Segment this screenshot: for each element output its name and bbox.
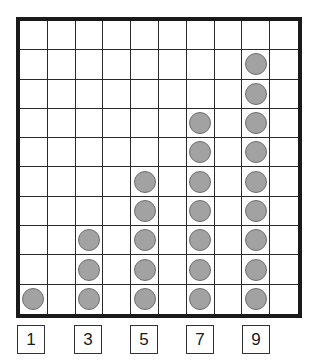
grid-cell bbox=[159, 197, 187, 226]
grid-cell bbox=[76, 138, 104, 167]
grid-cell bbox=[270, 21, 298, 50]
grid-cell bbox=[20, 197, 48, 226]
grid-cell bbox=[76, 255, 104, 284]
column-labels: 1 3 5 7 9 bbox=[0, 325, 309, 355]
grid-cell bbox=[103, 80, 131, 109]
counter-circle-icon bbox=[78, 259, 100, 281]
grid-cell bbox=[215, 138, 243, 167]
grid-cell bbox=[20, 167, 48, 196]
grid-cell bbox=[20, 109, 48, 138]
grid-cell bbox=[187, 138, 215, 167]
grid-cell bbox=[131, 109, 159, 138]
grid-cell bbox=[103, 197, 131, 226]
grid-cell bbox=[159, 255, 187, 284]
counter-circle-icon bbox=[189, 200, 211, 222]
grid-cell bbox=[270, 109, 298, 138]
grid-cell bbox=[48, 285, 76, 314]
counter-grid bbox=[16, 17, 302, 318]
grid-cell bbox=[187, 255, 215, 284]
grid-cell bbox=[76, 21, 104, 50]
grid-cell bbox=[20, 21, 48, 50]
grid-cell bbox=[270, 226, 298, 255]
grid-cell bbox=[103, 226, 131, 255]
grid-cell bbox=[103, 109, 131, 138]
grid-cell bbox=[20, 285, 48, 314]
counter-circle-icon bbox=[134, 171, 156, 193]
grid-cell bbox=[215, 50, 243, 79]
grid-cell bbox=[242, 197, 270, 226]
grid-cell bbox=[159, 21, 187, 50]
grid-cell bbox=[20, 138, 48, 167]
grid-cell bbox=[242, 138, 270, 167]
label-box-7: 7 bbox=[186, 325, 214, 354]
grid-cell bbox=[187, 80, 215, 109]
grid-cell bbox=[20, 255, 48, 284]
counter-circle-icon bbox=[189, 141, 211, 163]
grid-cell bbox=[76, 197, 104, 226]
grid-cell bbox=[76, 50, 104, 79]
grid-cell bbox=[48, 80, 76, 109]
grid-cell bbox=[131, 167, 159, 196]
grid-cell bbox=[215, 167, 243, 196]
label-box-3: 3 bbox=[74, 325, 102, 354]
grid-cell bbox=[131, 138, 159, 167]
counter-circle-icon bbox=[245, 200, 267, 222]
grid-cell bbox=[242, 50, 270, 79]
grid-cell bbox=[242, 80, 270, 109]
grid-cell bbox=[242, 285, 270, 314]
counter-circle-icon bbox=[245, 229, 267, 251]
grid-cell bbox=[242, 226, 270, 255]
grid-cell bbox=[76, 80, 104, 109]
grid-cell bbox=[103, 167, 131, 196]
grid-cell bbox=[103, 285, 131, 314]
counter-circle-icon bbox=[134, 259, 156, 281]
grid-cell bbox=[48, 138, 76, 167]
grid-cell bbox=[215, 109, 243, 138]
grid-cell bbox=[76, 285, 104, 314]
counter-circle-icon bbox=[134, 200, 156, 222]
grid-cell bbox=[270, 138, 298, 167]
grid-cell bbox=[131, 50, 159, 79]
counter-circle-icon bbox=[245, 141, 267, 163]
grid-cell bbox=[76, 167, 104, 196]
grid-cell bbox=[159, 50, 187, 79]
grid-cell bbox=[159, 138, 187, 167]
counter-circle-icon bbox=[189, 288, 211, 310]
grid-cell bbox=[187, 226, 215, 255]
counter-circle-icon bbox=[245, 83, 267, 105]
grid-cell bbox=[103, 255, 131, 284]
grid-cell bbox=[131, 80, 159, 109]
grid-cell bbox=[242, 109, 270, 138]
counter-circle-icon bbox=[245, 288, 267, 310]
grid-cell bbox=[20, 80, 48, 109]
grid-cell bbox=[215, 80, 243, 109]
grid-cell bbox=[270, 167, 298, 196]
grid-cell bbox=[270, 50, 298, 79]
grid-cell bbox=[187, 109, 215, 138]
grid-cell bbox=[187, 21, 215, 50]
counter-circle-icon bbox=[78, 229, 100, 251]
grid-cell bbox=[270, 80, 298, 109]
grid-cell bbox=[187, 285, 215, 314]
label-box-9: 9 bbox=[242, 325, 270, 354]
grid-cell bbox=[215, 255, 243, 284]
grid-cell bbox=[242, 167, 270, 196]
grid-cell bbox=[131, 197, 159, 226]
grid-cell bbox=[242, 21, 270, 50]
counter-circle-icon bbox=[134, 288, 156, 310]
label-box-1: 1 bbox=[17, 325, 45, 354]
grid-cell bbox=[48, 21, 76, 50]
grid-cell bbox=[103, 50, 131, 79]
grid-cell bbox=[76, 109, 104, 138]
grid-cell bbox=[48, 255, 76, 284]
grid-cell bbox=[187, 167, 215, 196]
counter-circle-icon bbox=[189, 171, 211, 193]
grid-cell bbox=[48, 197, 76, 226]
counter-circle-icon bbox=[22, 288, 44, 310]
grid-cell bbox=[131, 255, 159, 284]
grid-cell bbox=[131, 21, 159, 50]
grid-cell bbox=[215, 197, 243, 226]
grid-cell bbox=[215, 21, 243, 50]
grid-cell bbox=[20, 226, 48, 255]
grid-cell bbox=[270, 197, 298, 226]
